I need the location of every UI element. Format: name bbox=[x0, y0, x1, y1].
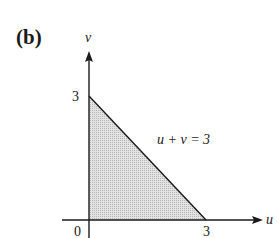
u-axis-label: u bbox=[266, 212, 273, 227]
u-tick-3: 3 bbox=[203, 224, 210, 238]
panel-label: (b) bbox=[16, 25, 42, 49]
origin-label: 0 bbox=[74, 224, 81, 238]
diagram: (b) v u 3 3 0 u + v = 3 bbox=[0, 0, 278, 238]
v-tick-3: 3 bbox=[72, 89, 79, 104]
v-axis-label: v bbox=[85, 30, 92, 45]
line-equation-label: u + v = 3 bbox=[157, 132, 210, 147]
